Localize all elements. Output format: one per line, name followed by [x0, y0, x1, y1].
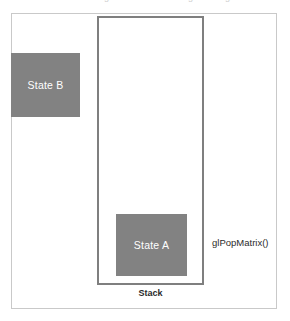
clipped-glyph: g: [104, 0, 109, 2]
matrix-stack-diagram: g g g State B State A Stack glPopMatrix(…: [0, 0, 290, 321]
state-b-label: State B: [28, 79, 64, 91]
state-b-box: State B: [11, 53, 80, 117]
clipped-glyph: g: [225, 0, 230, 2]
state-a-label: State A: [134, 239, 169, 251]
state-a-box: State A: [116, 214, 187, 276]
clipped-glyph: g: [188, 0, 193, 2]
glpopmatrix-annotation: glPopMatrix(): [212, 237, 269, 248]
clipped-text-artifacts: g g g: [0, 0, 290, 11]
stack-caption: Stack: [97, 288, 204, 298]
